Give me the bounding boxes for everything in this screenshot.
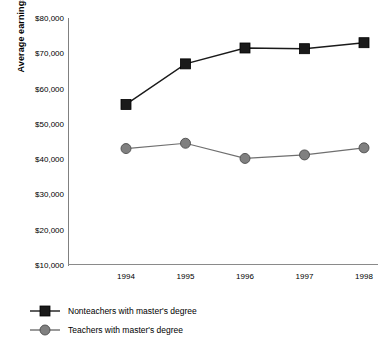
y-axis-tick-label: $60,000 [12,85,64,94]
y-axis-tick-label: $50,000 [12,120,64,129]
x-axis-tick-label: 1998 [342,272,386,282]
y-axis-tick-label: $30,000 [12,190,64,199]
legend-square-marker-icon [28,302,62,320]
y-axis-tick-label: $70,000 [12,49,64,58]
x-axis-tick-label: 1996 [223,272,267,282]
legend-item: Nonteachers with master's degree [28,302,358,321]
x-axis-line [68,264,378,265]
chart-legend: Nonteachers with master's degreeTeachers… [28,302,358,340]
x-axis-tick-label: 1995 [164,272,208,282]
line-chart-figure: Average earnings $80,000$70,000$60,000$5… [0,0,387,352]
y-axis-tick-label: $80,000 [12,14,64,23]
y-axis-tick-labels: $80,000$70,000$60,000$50,000$40,000$30,0… [10,18,64,266]
y-axis-tick-label: $40,000 [12,155,64,164]
legend-circle-marker-icon [28,321,62,339]
y-axis-tick-label: $20,000 [12,226,64,235]
x-axis-tick-labels: 19941995199619971998 [68,272,378,284]
x-axis-tick-label: 1994 [104,272,148,282]
legend-item: Teachers with master's degree [28,321,358,340]
x-axis-tick-label: 1997 [283,272,327,282]
legend-item-label: Nonteachers with master's degree [68,305,197,317]
y-axis-line [68,18,69,266]
plot-area [68,18,378,265]
legend-item-label: Teachers with master's degree [68,324,183,336]
y-axis-tick-label: $10,000 [12,261,64,270]
